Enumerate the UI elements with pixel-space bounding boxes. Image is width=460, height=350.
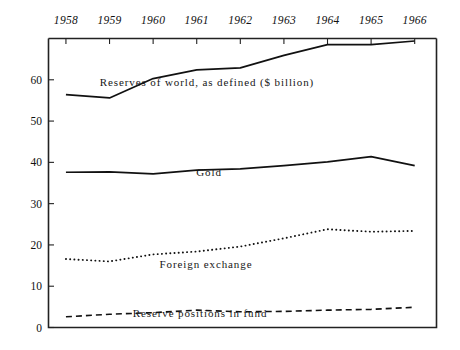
series-line-2 bbox=[66, 229, 415, 261]
series-label-0: Reserves of world, as defined ($ billion… bbox=[100, 76, 314, 88]
reserves-line-chart: 195819591960196119621963196419651966 010… bbox=[0, 0, 460, 350]
series-label-1: Gold bbox=[196, 166, 222, 178]
series-line-0 bbox=[66, 41, 415, 98]
series-label-2: Foreign exchange bbox=[160, 258, 253, 270]
series-line-1 bbox=[66, 157, 415, 174]
plot-area bbox=[0, 0, 460, 350]
series-label-3: Reserve positions in fund bbox=[133, 307, 268, 319]
